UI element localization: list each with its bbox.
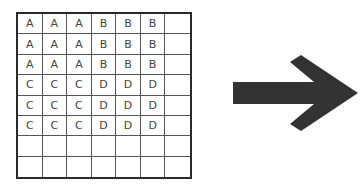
right-arrow-icon: [0, 0, 363, 187]
arrow-shape: [233, 55, 358, 131]
